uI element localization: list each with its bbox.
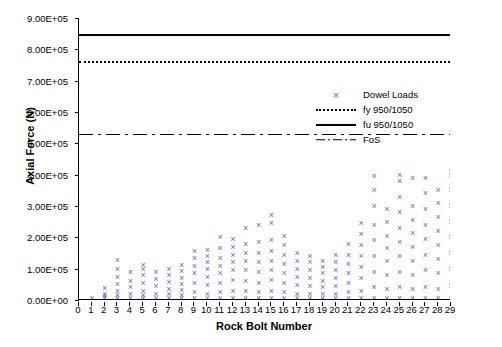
data-point: × bbox=[269, 247, 274, 256]
data-point: × bbox=[230, 275, 235, 284]
data-point: × bbox=[436, 255, 441, 264]
x-axis-title: Rock Bolt Number bbox=[78, 320, 450, 332]
data-point: × bbox=[371, 172, 376, 181]
data-point: × bbox=[243, 249, 248, 258]
data-point: × bbox=[346, 250, 351, 259]
data-point: × bbox=[448, 281, 450, 290]
data-point: × bbox=[371, 294, 376, 299]
data-point: × bbox=[140, 286, 145, 295]
data-point: × bbox=[384, 256, 389, 265]
data-point: × bbox=[333, 258, 338, 267]
data-point: × bbox=[230, 242, 235, 251]
x-axis-tick-mark bbox=[258, 302, 259, 306]
data-point: × bbox=[448, 166, 450, 175]
data-point: × bbox=[282, 269, 287, 278]
x-axis-tick-mark bbox=[91, 302, 92, 306]
x-axis-tick-labels: 0123456789101112131415161718192021222324… bbox=[78, 302, 450, 318]
data-point: × bbox=[423, 234, 428, 243]
data-point: × bbox=[205, 245, 210, 254]
data-point: × bbox=[423, 205, 428, 214]
data-point: × bbox=[282, 231, 287, 240]
x-axis-tick-mark bbox=[322, 302, 323, 306]
data-point: × bbox=[436, 227, 441, 236]
data-point: × bbox=[256, 278, 261, 287]
data-point: × bbox=[256, 288, 261, 297]
data-point: × bbox=[307, 289, 312, 298]
data-point: × bbox=[192, 269, 197, 278]
legend-item: fu 950/1050 bbox=[316, 117, 418, 132]
data-point: × bbox=[333, 266, 338, 275]
data-point: × bbox=[269, 286, 274, 295]
x-axis-tick-mark bbox=[193, 302, 194, 306]
x-axis-tick-mark bbox=[373, 302, 374, 306]
data-point: × bbox=[436, 285, 441, 294]
data-point: × bbox=[269, 266, 274, 275]
x-axis-tick-mark bbox=[270, 302, 271, 306]
data-point: × bbox=[153, 267, 158, 276]
x-axis-tick-mark bbox=[206, 302, 207, 306]
data-point: × bbox=[115, 264, 120, 273]
x-axis-tick-mark bbox=[142, 302, 143, 306]
data-point: × bbox=[397, 238, 402, 247]
data-point: × bbox=[371, 220, 376, 229]
x-axis-tick-mark bbox=[104, 302, 105, 306]
data-point: × bbox=[448, 233, 450, 242]
data-point: × bbox=[371, 202, 376, 211]
x-axis-tick-mark bbox=[155, 302, 156, 306]
data-point: × bbox=[192, 278, 197, 287]
data-point: × bbox=[294, 256, 299, 265]
x-axis-tick-mark bbox=[181, 302, 182, 306]
data-point: × bbox=[269, 275, 274, 284]
data-point: × bbox=[384, 270, 389, 279]
data-point: × bbox=[217, 244, 222, 253]
data-point: × bbox=[230, 286, 235, 295]
data-point: × bbox=[128, 268, 133, 277]
data-point: × bbox=[423, 189, 428, 198]
data-point: × bbox=[192, 261, 197, 270]
data-point: × bbox=[217, 278, 222, 287]
data-point: × bbox=[320, 256, 325, 265]
x-axis-tick-mark bbox=[219, 302, 220, 306]
data-point: × bbox=[256, 267, 261, 276]
data-point: × bbox=[346, 269, 351, 278]
data-point: × bbox=[192, 247, 197, 256]
data-point: × bbox=[397, 192, 402, 201]
data-point: × bbox=[256, 238, 261, 247]
x-axis-tick-mark bbox=[168, 302, 169, 306]
scatter-chart: 0.00E+001.00E+052.00E+053.00E+054.00E+05… bbox=[0, 0, 502, 347]
y-axis-tick-mark bbox=[75, 300, 79, 301]
data-point: × bbox=[371, 236, 376, 245]
data-point: × bbox=[333, 274, 338, 283]
data-point: × bbox=[384, 231, 389, 240]
plot-inner: ××××××××××××××××××××××××××××××××××××××××… bbox=[79, 18, 450, 299]
data-point: × bbox=[166, 265, 171, 274]
data-point: × bbox=[436, 212, 441, 221]
legend-line-icon bbox=[316, 109, 356, 111]
legend-key: × bbox=[316, 89, 356, 101]
data-point: × bbox=[423, 173, 428, 182]
data-point: × bbox=[115, 255, 120, 264]
data-point: × bbox=[410, 285, 415, 294]
data-point: × bbox=[359, 274, 364, 283]
data-point: × bbox=[371, 252, 376, 261]
data-point: × bbox=[397, 170, 402, 179]
data-point: × bbox=[448, 217, 450, 226]
plot-area: ××××××××××××××××××××××××××××××××××××××××… bbox=[78, 18, 450, 300]
data-point: × bbox=[448, 249, 450, 258]
data-point: × bbox=[140, 260, 145, 269]
data-point: × bbox=[397, 223, 402, 232]
data-point: × bbox=[384, 244, 389, 253]
data-point: × bbox=[217, 261, 222, 270]
y-axis-title: Axial Force (N) bbox=[24, 56, 36, 236]
data-point: × bbox=[217, 253, 222, 262]
reference-line-fy-950-1050 bbox=[79, 61, 450, 63]
data-point: × bbox=[423, 283, 428, 292]
data-point: × bbox=[243, 266, 248, 275]
x-axis-tick-mark bbox=[309, 302, 310, 306]
data-point: × bbox=[282, 259, 287, 268]
x-axis-tick-mark bbox=[283, 302, 284, 306]
y-axis-tick-mark bbox=[75, 269, 79, 270]
x-axis-tick-mark bbox=[129, 302, 130, 306]
y-axis-tick-mark bbox=[75, 206, 79, 207]
x-axis-tick-mark bbox=[296, 302, 297, 306]
